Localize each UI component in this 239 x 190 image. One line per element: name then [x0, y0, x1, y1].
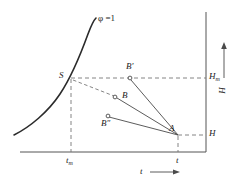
- point-label-b-double-prime: B″: [101, 119, 110, 128]
- psychrometric-diagram: φ =1 S B' B B″ A Hm H tm t t H: [0, 0, 239, 190]
- saturation-curve-label: φ =1: [98, 14, 115, 23]
- diagram-canvas: [0, 0, 239, 190]
- point-label-b: B: [122, 91, 128, 100]
- connector-a-to-b-double-prime: [109, 117, 178, 135]
- x-axis-title: t: [140, 167, 143, 176]
- y-tick-label-hm: Hm: [209, 72, 220, 81]
- x-axis-arrow-head: [173, 169, 180, 174]
- point-label-b-prime: B': [126, 62, 133, 71]
- y-axis-arrow-head: [221, 42, 227, 49]
- saturation-curve: [14, 18, 96, 135]
- point-label-s: S: [59, 71, 64, 80]
- y-axis-title: H: [218, 87, 227, 94]
- y-tick-hm-subscript: m: [216, 76, 220, 82]
- marker-b-prime: [128, 76, 132, 80]
- y-tick-hm-base: H: [209, 71, 216, 81]
- x-tick-tm-subscript: m: [69, 160, 73, 166]
- y-tick-label-h: H: [209, 129, 216, 138]
- point-label-a: A: [169, 124, 175, 133]
- connector-s-to-b: [73, 80, 114, 96]
- marker-b: [113, 95, 117, 99]
- x-tick-label-tm: tm: [66, 156, 73, 165]
- x-tick-label-t: t: [176, 156, 179, 165]
